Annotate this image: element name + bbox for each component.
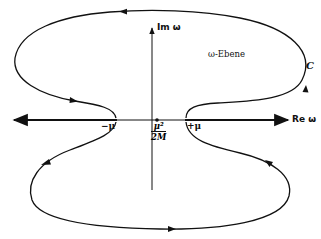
minus-mu-label: −μ [101,121,115,131]
arrow-right-icon [70,97,79,103]
contour-label: C [306,60,314,71]
fraction-numerator: μ² [151,121,166,132]
arrow-up-left-icon [265,160,273,167]
arrow-left-icon [119,9,127,15]
region-label: ω-Ebene [208,49,245,59]
origin-fraction-label: μ² 2M [151,121,166,142]
contour-diagram [0,0,321,239]
arrow-right-icon [168,226,176,232]
plus-mu-label: +μ [187,121,201,131]
fraction-denominator: 2M [151,132,166,142]
real-axis-label: Re ω [292,114,316,124]
imag-axis-label: Im ω [157,22,181,32]
arrow-up-icon [303,85,309,93]
